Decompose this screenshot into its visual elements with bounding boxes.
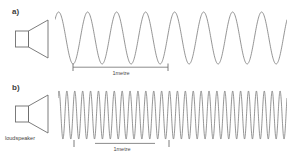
loudspeaker-icon-a — [14, 18, 54, 60]
waveform-b — [58, 89, 287, 141]
loudspeaker-caption: loudspeaker — [5, 136, 35, 142]
waveform-a — [55, 9, 287, 67]
panel-b-label: b) — [12, 84, 20, 92]
sound-wavelength-figure: a) 1metre b) loudspeaker — [0, 0, 290, 161]
loudspeaker-icon-b — [14, 93, 54, 135]
scale-caption-b: 1metre — [73, 147, 171, 153]
scale-caption-a: 1metre — [72, 71, 170, 77]
panel-a-label: a) — [12, 8, 19, 16]
